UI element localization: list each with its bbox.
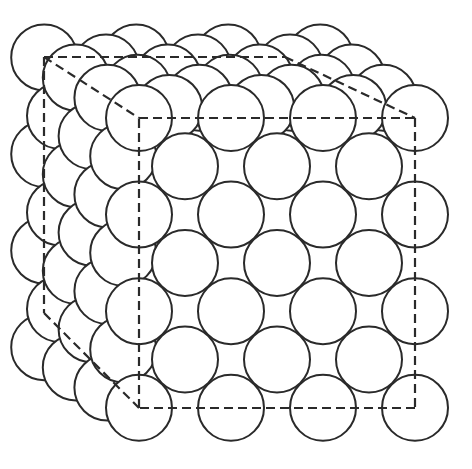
sphere — [152, 133, 218, 199]
sphere — [152, 230, 218, 296]
sphere — [290, 278, 356, 344]
sphere — [336, 230, 402, 296]
sphere-group — [11, 24, 448, 440]
sphere — [152, 327, 218, 393]
diagram-canvas — [0, 0, 472, 469]
sphere — [198, 278, 264, 344]
sphere — [336, 133, 402, 199]
sphere — [244, 133, 310, 199]
sphere — [290, 182, 356, 248]
sphere — [336, 327, 402, 393]
fcc-lattice-diagram — [0, 0, 472, 469]
sphere — [244, 230, 310, 296]
sphere — [244, 327, 310, 393]
sphere — [198, 182, 264, 248]
